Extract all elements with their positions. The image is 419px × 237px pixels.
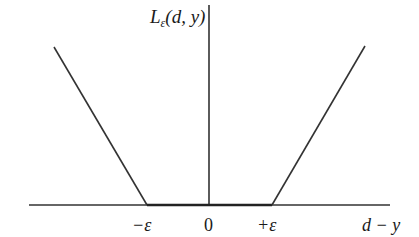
tick-label-pos-epsilon: +ε	[257, 216, 276, 234]
y-axis-label: Lε(d, y)	[150, 7, 205, 29]
loss-left-branch	[54, 47, 147, 205]
loss-right-branch	[272, 46, 365, 205]
y-axis-label-args: (d, y)	[165, 6, 205, 27]
tick-label-neg-epsilon: −ε	[132, 216, 151, 234]
y-axis-label-main: L	[150, 6, 161, 27]
x-axis-label: d − y	[362, 216, 400, 234]
diagram-graphics	[0, 0, 419, 237]
tick-label-zero: 0	[204, 216, 213, 234]
loss-diagram: Lε(d, y) −ε 0 +ε d − y	[0, 0, 419, 237]
